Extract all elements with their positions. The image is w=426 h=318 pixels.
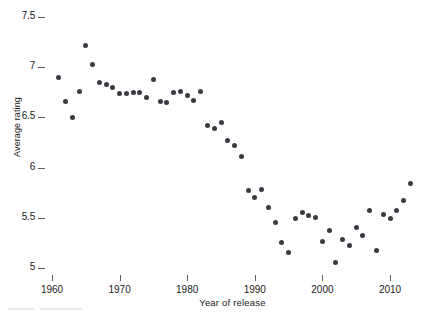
x-tick-label: 1970	[100, 284, 140, 295]
data-point	[56, 75, 61, 80]
data-point	[212, 126, 217, 131]
data-point	[90, 62, 95, 67]
y-tick-mark	[38, 67, 45, 68]
data-point	[266, 205, 271, 210]
data-point	[225, 138, 230, 143]
x-tick-label: 1960	[32, 284, 72, 295]
x-tick-mark	[120, 275, 121, 281]
data-point	[97, 80, 102, 85]
y-tick-label: 5	[10, 261, 35, 272]
data-point	[252, 195, 257, 200]
x-tick-mark	[255, 275, 256, 281]
data-point	[320, 239, 325, 244]
x-tick-label: 1990	[235, 284, 275, 295]
data-point	[327, 228, 332, 233]
data-point	[354, 225, 359, 230]
data-point	[286, 250, 291, 255]
y-tick-label: 7	[10, 60, 35, 71]
data-point	[360, 233, 365, 238]
data-point	[347, 243, 352, 248]
y-tick-label: 5.5	[10, 211, 35, 222]
data-point	[219, 120, 224, 125]
data-point	[164, 100, 169, 105]
data-point	[185, 93, 190, 98]
data-point	[381, 212, 386, 217]
x-tick-label: 1980	[167, 284, 207, 295]
y-tick-mark	[38, 268, 45, 269]
x-tick-mark	[187, 275, 188, 281]
data-point	[77, 89, 82, 94]
data-point	[63, 99, 68, 104]
data-point	[340, 237, 345, 242]
data-point	[273, 220, 278, 225]
x-tick-label: 2010	[370, 284, 410, 295]
data-point	[198, 89, 203, 94]
data-point	[239, 154, 244, 159]
data-point	[313, 215, 318, 220]
data-point	[104, 82, 109, 87]
data-point	[232, 143, 237, 148]
y-tick-label: 6	[10, 161, 35, 172]
x-tick-label: 2000	[302, 284, 342, 295]
data-point	[70, 115, 75, 120]
data-point	[171, 90, 176, 95]
data-point	[137, 90, 142, 95]
scan-artifact	[40, 308, 82, 310]
data-point	[124, 91, 129, 96]
data-point	[117, 91, 122, 96]
data-point	[374, 248, 379, 253]
data-point	[205, 123, 210, 128]
data-point	[394, 208, 399, 213]
y-tick-mark	[38, 168, 45, 169]
data-point	[293, 216, 298, 221]
data-point	[388, 216, 393, 221]
data-point	[131, 90, 136, 95]
y-tick-mark	[38, 17, 45, 18]
data-point	[408, 181, 413, 186]
plot-area	[45, 12, 420, 275]
data-point	[151, 77, 156, 82]
data-point	[191, 98, 196, 103]
data-point	[306, 213, 311, 218]
y-tick-mark	[38, 117, 45, 118]
data-point	[144, 95, 149, 100]
data-point	[110, 85, 115, 90]
data-point	[367, 208, 372, 213]
y-tick-label: 7.5	[10, 10, 35, 21]
data-point	[83, 43, 88, 48]
scan-artifact	[8, 308, 34, 310]
y-tick-label: 6.5	[10, 110, 35, 121]
data-point	[158, 99, 163, 104]
x-tick-mark	[52, 275, 53, 281]
data-point	[300, 210, 305, 215]
data-point	[259, 187, 264, 192]
y-tick-mark	[38, 218, 45, 219]
scatter-chart-figure: Average rating 55.566.577.5 196019701980…	[0, 0, 426, 318]
data-point	[401, 198, 406, 203]
data-point	[246, 188, 251, 193]
data-point	[279, 240, 284, 245]
data-point	[333, 260, 338, 265]
x-tick-mark	[322, 275, 323, 281]
data-point	[178, 89, 183, 94]
x-tick-mark	[390, 275, 391, 281]
x-axis-title: Year of release	[45, 297, 420, 308]
